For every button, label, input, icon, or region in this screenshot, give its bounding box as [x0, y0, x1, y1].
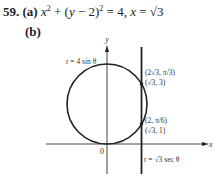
lower-point-polar-label: (2, π/6) — [145, 116, 168, 125]
x-axis-label: x — [208, 140, 213, 149]
lower-point-rect-label: (√3, 1) — [145, 126, 166, 135]
intersection-point-upper — [140, 82, 144, 86]
intersection-point-lower — [140, 122, 144, 126]
origin-label: 0 — [100, 147, 104, 156]
upper-point-polar-label: (2√3, π/3) — [145, 68, 175, 77]
line-equation-label: r = √3 sec θ — [144, 155, 180, 164]
x-axis-arrow-icon — [202, 142, 209, 146]
y-axis-arrow-icon — [105, 45, 109, 52]
polar-graph: y x 0 r = 4 sin θ r = √3 sec θ (2√3, π/3… — [0, 0, 215, 176]
upper-point-rect-label: (√3, 3) — [145, 78, 166, 87]
y-axis-label: y — [104, 35, 109, 44]
circle-equation-label: r = 4 sin θ — [66, 57, 97, 66]
